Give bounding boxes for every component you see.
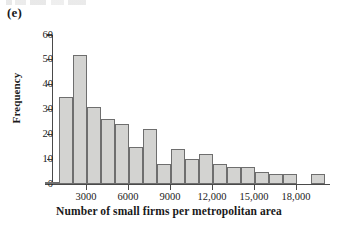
y-tick-label: 20	[31, 129, 53, 140]
y-tick-label-wrap: 40	[20, 79, 53, 90]
histogram-bar	[213, 164, 227, 184]
y-tick-label: 40	[31, 79, 53, 90]
x-axis-title: Number of small firms per metropolitan a…	[0, 205, 338, 217]
histogram-bar	[269, 174, 283, 184]
y-tick-label: 50	[31, 54, 53, 65]
histogram-bar	[283, 174, 297, 184]
x-tick-label: 3000	[64, 191, 108, 202]
histogram-bar	[227, 167, 241, 184]
histogram-bar	[45, 182, 59, 184]
y-tick-label-wrap: 10	[20, 154, 53, 165]
y-tick-label: 30	[31, 104, 53, 115]
x-tick-label: 9000	[148, 191, 192, 202]
y-tick-label-wrap: 30	[20, 104, 53, 115]
histogram-bar	[87, 107, 101, 184]
x-tick-mark	[170, 185, 171, 190]
y-tick-label-wrap: 0	[20, 179, 53, 190]
x-tick-label: 12,000	[190, 191, 234, 202]
y-tick-label-wrap: 60	[20, 30, 53, 41]
histogram-plot: 0102030405060 30006000900012,00015,00018…	[0, 0, 338, 225]
x-tick-label: 6000	[106, 191, 150, 202]
histogram-bar	[185, 159, 199, 184]
x-tick-mark	[296, 185, 297, 190]
y-tick-label-wrap: 20	[20, 129, 53, 140]
histogram-bar	[59, 97, 73, 184]
x-tick-mark	[128, 185, 129, 190]
histogram-bar	[101, 119, 115, 184]
histogram-bar	[157, 164, 171, 184]
histogram-bar	[115, 124, 129, 184]
histogram-bar	[311, 174, 325, 184]
x-tick-mark	[254, 185, 255, 190]
x-tick-mark	[86, 185, 87, 190]
histogram-bar	[143, 129, 157, 184]
x-tick-label: 15,000	[232, 191, 276, 202]
y-tick-label-wrap: 50	[20, 54, 53, 65]
y-axis-title: Frequency	[10, 50, 22, 146]
y-tick-label: 60	[31, 30, 53, 41]
histogram-bar	[129, 147, 143, 184]
x-axis-line	[45, 184, 330, 185]
histogram-bar	[73, 55, 87, 184]
x-tick-label: 18,000	[274, 191, 318, 202]
x-tick-mark	[212, 185, 213, 190]
histogram-bar	[199, 154, 213, 184]
histogram-bar	[171, 149, 185, 184]
y-tick-label: 10	[31, 154, 53, 165]
histogram-bar	[241, 167, 255, 184]
histogram-bar	[255, 172, 269, 184]
